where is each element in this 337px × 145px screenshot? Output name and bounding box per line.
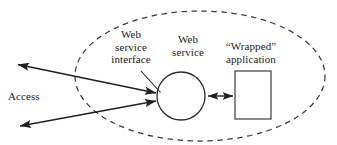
web-service-circle bbox=[157, 72, 205, 120]
label-line: Web bbox=[100, 28, 162, 41]
label-line: interface bbox=[100, 53, 162, 66]
access-arrow-upper bbox=[18, 65, 156, 94]
web-service-wrapper-diagram: Web service interface Web service “Wrapp… bbox=[0, 0, 337, 145]
label-access: Access bbox=[8, 90, 60, 103]
diagram-canvas bbox=[0, 0, 337, 145]
interface-leader-line bbox=[141, 71, 161, 93]
label-line: “Wrapped” bbox=[213, 40, 289, 53]
wrapped-application-rect bbox=[235, 71, 271, 119]
label-line: service bbox=[158, 46, 218, 59]
label-line: Web bbox=[158, 33, 218, 46]
label-web-service: Web service bbox=[158, 33, 218, 58]
label-wrapped-application: “Wrapped” application bbox=[213, 40, 289, 65]
label-web-service-interface: Web service interface bbox=[100, 28, 162, 66]
label-line: service bbox=[100, 41, 162, 54]
label-line: application bbox=[213, 53, 289, 66]
